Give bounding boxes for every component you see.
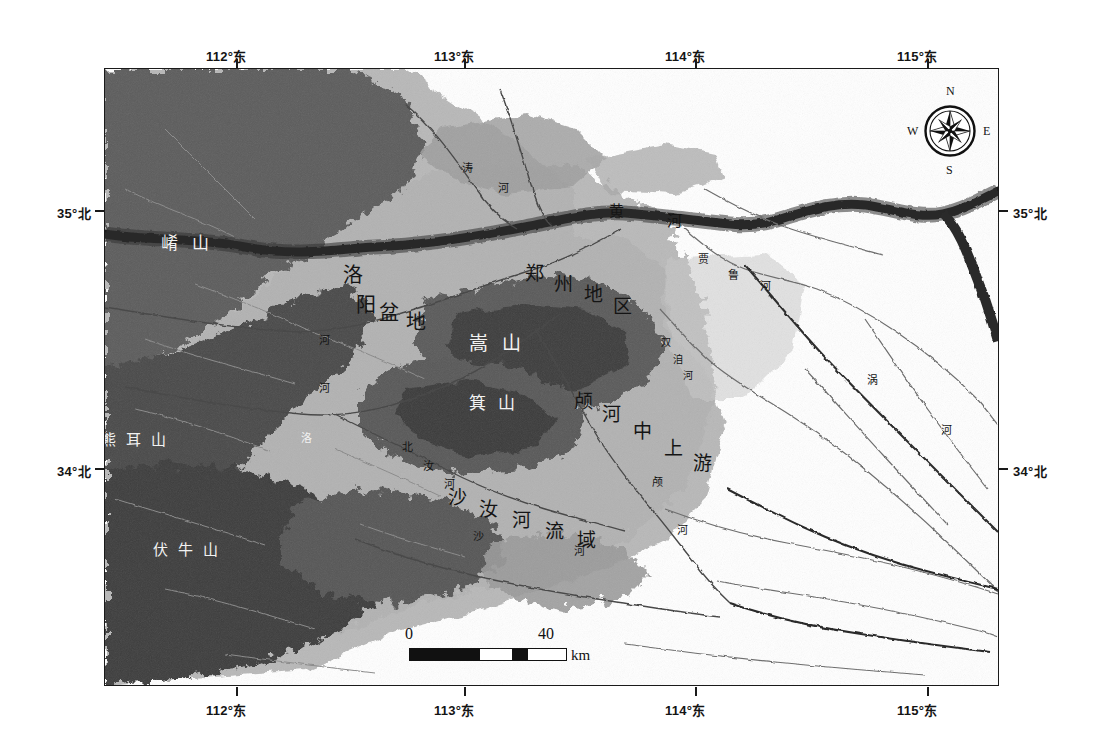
scale-bar-segment-empty-1: [479, 648, 513, 661]
axis-tick-bottom-3: [927, 687, 929, 696]
axis-label-top-2: 114°东: [665, 46, 706, 65]
scale-bar-end-label: 40: [538, 625, 554, 643]
map-figure: 112°东 113°东 114°东 115°东 112°东 113°东 114°…: [0, 0, 1095, 754]
compass-rose: N S W E: [905, 84, 995, 179]
axis-tick-bottom-0: [236, 687, 238, 696]
scale-bar-start-label: 0: [405, 625, 413, 643]
axis-label-bottom-1: 113°东: [434, 700, 475, 719]
axis-label-bottom-2: 114°东: [665, 700, 706, 719]
compass-star-icon: [905, 84, 995, 179]
scale-bar-segment-filled-2: [513, 648, 527, 661]
axis-label-top-0: 112°东: [206, 46, 247, 65]
axis-label-bottom-0: 112°东: [206, 700, 247, 719]
axis-label-bottom-3: 115°东: [897, 700, 938, 719]
axis-tick-top-2: [695, 59, 697, 68]
axis-tick-right-0: [999, 210, 1008, 212]
map-canvas[interactable]: 崤山熊耳山伏牛山洛阳盆地郑州地区嵩山箕山颅河中上游沙汝河流域黄河涛河贾鲁河双洎河…: [104, 68, 999, 686]
axis-label-left-0: 35°北: [57, 203, 91, 222]
axis-tick-top-1: [464, 59, 466, 68]
axis-tick-right-1: [999, 468, 1008, 470]
scale-bar: 0 40 km: [405, 625, 605, 671]
axis-tick-bottom-2: [695, 687, 697, 696]
relief-map-graphic: [105, 69, 998, 685]
axis-label-top-3: 115°东: [897, 46, 938, 65]
scale-bar-unit-label: km: [571, 647, 590, 664]
scale-bar-segment-filled-1: [409, 648, 479, 661]
axis-tick-left-0: [95, 210, 104, 212]
axis-tick-top-0: [236, 59, 238, 68]
axis-tick-bottom-1: [464, 687, 466, 696]
axis-label-right-1: 34°北: [1013, 461, 1047, 480]
axis-label-top-1: 113°东: [434, 46, 475, 65]
axis-tick-left-1: [95, 468, 104, 470]
axis-label-left-1: 34°北: [57, 461, 91, 480]
axis-label-right-0: 35°北: [1013, 203, 1047, 222]
axis-tick-top-3: [927, 59, 929, 68]
scale-bar-segment-empty-2: [527, 648, 567, 661]
